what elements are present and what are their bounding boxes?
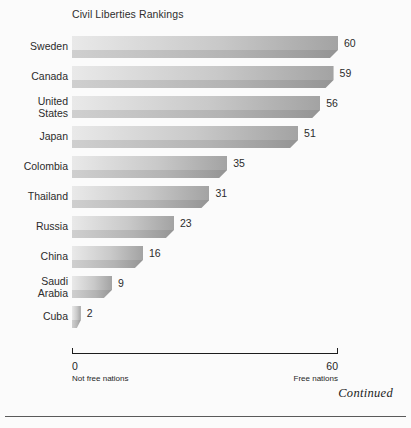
- bar: [72, 276, 112, 298]
- bar: [72, 246, 143, 268]
- bar-top-face: [72, 276, 112, 290]
- bar-category-label: Russia: [0, 221, 68, 233]
- bar-row: China16: [0, 242, 411, 272]
- bar-row: Japan51: [0, 122, 411, 152]
- bar-category-label: Cuba: [0, 311, 68, 323]
- bar-category-label: Thailand: [0, 191, 68, 203]
- axis-tick-0: [72, 348, 73, 354]
- bar-front-face: [72, 140, 298, 148]
- civil-liberties-bar-chart-figure: Civil Liberties Rankings Sweden60Canada5…: [0, 0, 411, 428]
- axis-label-group-right: 60 Free nations: [294, 360, 338, 384]
- axis-tick-60: [337, 348, 338, 354]
- axis-tick-label-60: 60: [294, 360, 338, 373]
- chart-title: Civil Liberties Rankings: [72, 8, 184, 20]
- bar-front-face: [72, 320, 81, 328]
- bar-top-face: [72, 36, 338, 50]
- bar-top-face: [72, 246, 143, 260]
- axis-tick-label-0: 0: [72, 360, 128, 373]
- bar-row: Russia23: [0, 212, 411, 242]
- bar-value-label: 31: [215, 186, 227, 201]
- bar-front-face: [72, 230, 174, 238]
- bar-value-label: 2: [87, 306, 93, 321]
- bar-row: Thailand31: [0, 182, 411, 212]
- bar: [72, 66, 334, 88]
- bar-category-label-line: Arabia: [0, 287, 68, 299]
- bar-category-label-line: Canada: [0, 71, 68, 83]
- bar-front-face: [72, 80, 334, 88]
- axis-caption-free-nations: Free nations: [294, 373, 338, 384]
- bar-value-label: 9: [118, 276, 124, 291]
- bar-value-label: 60: [344, 36, 356, 51]
- x-axis: 0 Not free nations 60 Free nations: [72, 348, 338, 349]
- bar-category-label-line: China: [0, 251, 68, 263]
- bar-top-face: [72, 216, 174, 230]
- bar-front-face: [72, 50, 338, 58]
- bottom-divider: [5, 416, 406, 417]
- axis-caption-not-free-nations: Not free nations: [72, 373, 128, 384]
- bar: [72, 36, 338, 58]
- bar-value-label: 16: [149, 246, 161, 261]
- bar-value-label: 56: [326, 96, 338, 111]
- bar-category-label-line: Saudi: [0, 276, 68, 288]
- bar-row: Cuba2: [0, 302, 411, 332]
- bar-value-label: 59: [340, 66, 352, 81]
- bar-value-label: 23: [180, 216, 192, 231]
- bar-top-face: [72, 306, 81, 320]
- bar-top-face: [72, 66, 334, 80]
- bar-category-label: Japan: [0, 131, 68, 143]
- bar-value-label: 51: [304, 126, 316, 141]
- bar-category-label: Canada: [0, 71, 68, 83]
- bar-top-face: [72, 156, 227, 170]
- bar-category-label-line: Cuba: [0, 311, 68, 323]
- bar-category-label-line: Sweden: [0, 41, 68, 53]
- bar-row: Canada59: [0, 62, 411, 92]
- bar: [72, 186, 209, 208]
- bar: [72, 126, 298, 148]
- bar-front-face: [72, 260, 143, 268]
- bar-row: Sweden60: [0, 32, 411, 62]
- bar-category-label-line: Thailand: [0, 191, 68, 203]
- bar-category-label: China: [0, 251, 68, 263]
- bar-category-label: UnitedStates: [0, 96, 68, 119]
- axis-line: [72, 353, 338, 354]
- axis-label-group-left: 0 Not free nations: [72, 360, 128, 384]
- bar-front-face: [72, 170, 227, 178]
- bar-front-face: [72, 290, 112, 298]
- bar-row: Colombia35: [0, 152, 411, 182]
- bar: [72, 96, 320, 118]
- bar-front-face: [72, 110, 320, 118]
- bar-category-label: Colombia: [0, 161, 68, 173]
- bar-row: UnitedStates56: [0, 92, 411, 122]
- continued-note: Continued: [338, 386, 393, 401]
- bar-top-face: [72, 126, 298, 140]
- bar-top-face: [72, 186, 209, 200]
- bar: [72, 306, 81, 328]
- bar: [72, 216, 174, 238]
- bar-row: SaudiArabia9: [0, 272, 411, 302]
- bar-category-label-line: Japan: [0, 131, 68, 143]
- bar-category-label: SaudiArabia: [0, 276, 68, 299]
- bar-top-face: [72, 96, 320, 110]
- bar-category-label-line: United: [0, 96, 68, 108]
- bar-category-label-line: Russia: [0, 221, 68, 233]
- bar: [72, 156, 227, 178]
- bar-front-face: [72, 200, 209, 208]
- bar-category-label-line: States: [0, 107, 68, 119]
- plot-area: Sweden60Canada59UnitedStates56Japan51Col…: [0, 30, 411, 350]
- bar-value-label: 35: [233, 156, 245, 171]
- bar-category-label: Sweden: [0, 41, 68, 53]
- bar-category-label-line: Colombia: [0, 161, 68, 173]
